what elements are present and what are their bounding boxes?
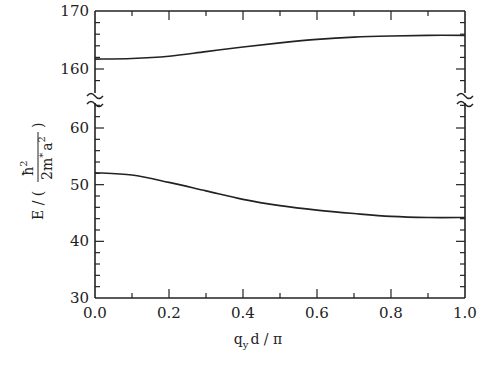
x-axis-label: qyd / π xyxy=(234,331,282,350)
band-curves xyxy=(95,35,465,217)
tick-labels: 0.00.20.40.60.81.030405060160170 xyxy=(60,2,477,322)
x-tick-label: 1.0 xyxy=(453,304,477,322)
plot-frame xyxy=(95,11,465,298)
x-tick-label: 0.8 xyxy=(379,304,403,322)
axis-ticks xyxy=(95,11,465,298)
band-curve xyxy=(95,173,465,218)
x-tick-label: 0.2 xyxy=(157,304,181,322)
svg-text:ħ2: ħ2 xyxy=(18,160,36,175)
y-tick-label: 50 xyxy=(70,176,89,194)
svg-text:): ) xyxy=(30,123,46,128)
y-tick-label: 40 xyxy=(70,232,89,250)
svg-text:E / (: E / ( xyxy=(30,191,46,220)
svg-text:2m*a2: 2m*a2 xyxy=(36,136,55,180)
y-tick-label: 30 xyxy=(70,289,89,307)
x-tick-label: 0.6 xyxy=(305,304,329,322)
band-energy-chart: 0.00.20.40.60.81.030405060160170 qyd / π… xyxy=(0,0,487,367)
axis-break-marks xyxy=(87,94,473,107)
y-tick-label: 60 xyxy=(70,119,89,137)
x-tick-label: 0.4 xyxy=(231,304,255,322)
band-curve xyxy=(95,35,465,59)
y-tick-label: 160 xyxy=(60,60,89,78)
y-tick-label: 170 xyxy=(60,2,89,20)
y-axis-label: E / ( ħ2 2m*a2 ) xyxy=(18,123,55,220)
